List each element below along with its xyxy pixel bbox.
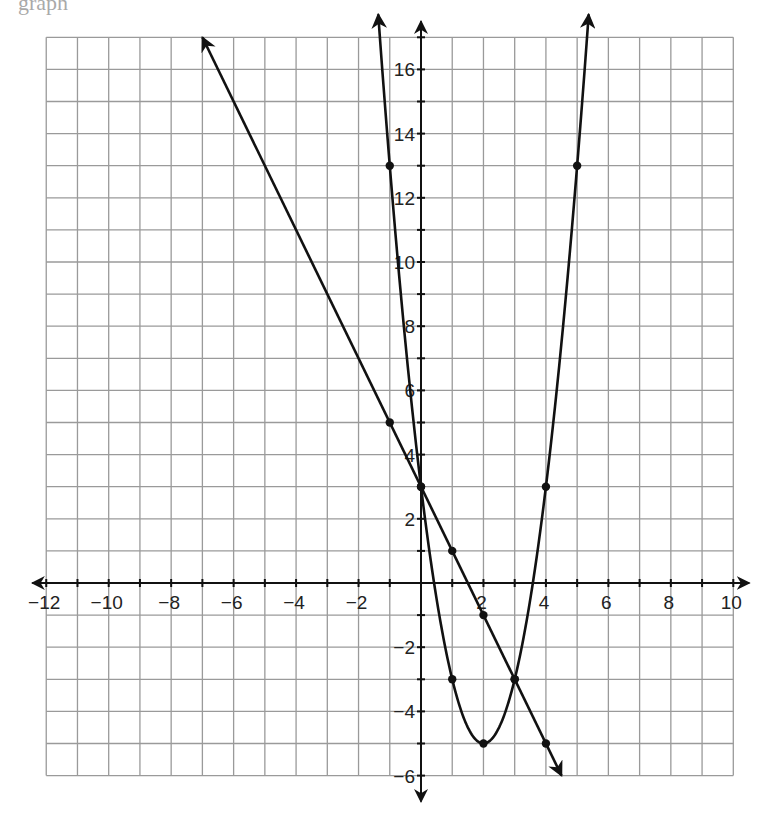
line-graph (202, 37, 561, 775)
data-point (479, 739, 487, 747)
y-tick-label: −2 (393, 637, 415, 658)
data-point (542, 483, 550, 491)
y-tick-label: 8 (404, 316, 415, 337)
y-tick-label: 16 (394, 59, 415, 80)
data-point (417, 483, 425, 491)
x-tick-label: −12 (28, 592, 60, 613)
y-tick-label: 2 (404, 509, 415, 530)
y-tick-label: 12 (394, 188, 415, 209)
data-point (542, 739, 550, 747)
data-point (448, 675, 456, 683)
data-point (573, 162, 581, 170)
data-point (448, 547, 456, 555)
coordinate-plane-chart: −12−10−8−6−4−2246810161412108642−2−4−6 (0, 0, 777, 818)
x-tick-label: −4 (283, 592, 305, 613)
x-tick-label: −2 (346, 592, 368, 613)
x-tick-label: −6 (221, 592, 243, 613)
x-tick-label: 4 (539, 592, 550, 613)
data-point (510, 675, 518, 683)
data-point (479, 611, 487, 619)
y-tick-label: −4 (393, 701, 415, 722)
grid (46, 37, 733, 775)
data-point (386, 418, 394, 426)
series-line (202, 37, 561, 775)
y-tick-label: 14 (394, 124, 416, 145)
data-point (386, 162, 394, 170)
x-tick-label: 6 (601, 592, 612, 613)
x-tick-label: 10 (721, 592, 742, 613)
x-tick-label: 8 (664, 592, 675, 613)
x-tick-label: −10 (91, 592, 123, 613)
x-tick-label: −8 (158, 592, 180, 613)
y-tick-label: −6 (393, 766, 415, 787)
